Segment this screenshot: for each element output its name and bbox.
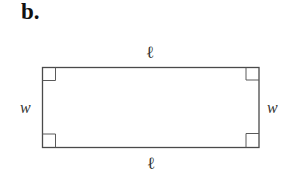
right-angle-marker-bottom-right	[246, 134, 259, 148]
right-angle-marker-bottom-left	[43, 134, 56, 148]
right-angle-marker-top-right	[246, 68, 259, 81]
width-label-right: w	[267, 100, 278, 116]
length-label-top: ℓ	[146, 45, 154, 61]
length-label-bottom: ℓ	[147, 156, 155, 172]
rectangle-outline	[43, 68, 260, 148]
right-angle-marker-top-left	[43, 68, 56, 81]
width-label-left: w	[20, 100, 31, 116]
